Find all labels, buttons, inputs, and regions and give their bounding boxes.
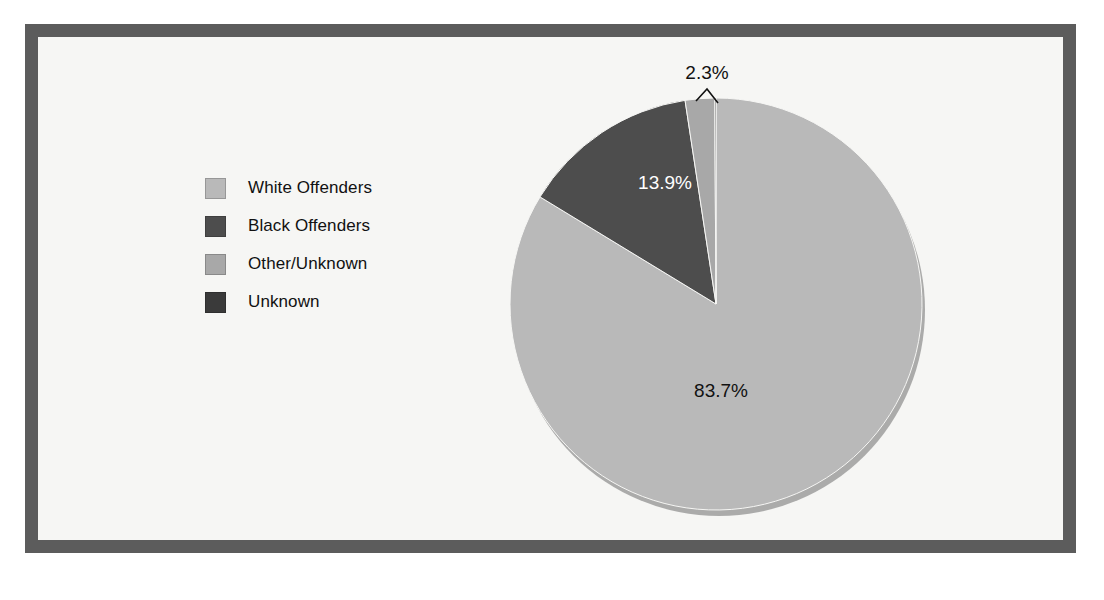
legend-label-black-offenders: Black Offenders xyxy=(248,216,370,236)
legend-label-other-unknown: Other/Unknown xyxy=(248,254,367,274)
legend-swatch-unknown xyxy=(205,292,226,313)
pie-slice-value-label: 2.3% xyxy=(685,62,728,83)
label-leader-line xyxy=(696,89,718,103)
legend-swatch-white-offenders xyxy=(205,178,226,199)
legend-label-unknown: Unknown xyxy=(248,292,320,312)
legend-item-other-unknown[interactable]: Other/Unknown xyxy=(205,245,465,283)
pie-shadow xyxy=(513,104,925,516)
pie-slice[interactable] xyxy=(715,98,716,304)
legend-item-white-offenders[interactable]: White Offenders xyxy=(205,169,465,207)
pie-slice[interactable] xyxy=(685,98,716,304)
legend-item-black-offenders[interactable]: Black Offenders xyxy=(205,207,465,245)
pie-slice[interactable] xyxy=(540,100,716,304)
legend-swatch-black-offenders xyxy=(205,216,226,237)
legend-item-unknown[interactable]: Unknown xyxy=(205,283,465,321)
chart-frame: 83.7%13.9%2.3% White Offenders Black Off… xyxy=(25,24,1076,553)
pie-slice-value-label: 13.9% xyxy=(638,172,692,193)
chart-legend: White Offenders Black Offenders Other/Un… xyxy=(205,169,465,321)
pie-slice[interactable] xyxy=(510,98,922,510)
pie-chart-svg: 83.7%13.9%2.3% xyxy=(38,37,1063,540)
chart-plot-area: 83.7%13.9%2.3% White Offenders Black Off… xyxy=(38,37,1063,540)
pie-slice-value-label: 83.7% xyxy=(694,380,748,401)
pie-chart: 83.7%13.9%2.3% xyxy=(38,37,1063,540)
legend-swatch-other-unknown xyxy=(205,254,226,275)
legend-label-white-offenders: White Offenders xyxy=(248,178,372,198)
